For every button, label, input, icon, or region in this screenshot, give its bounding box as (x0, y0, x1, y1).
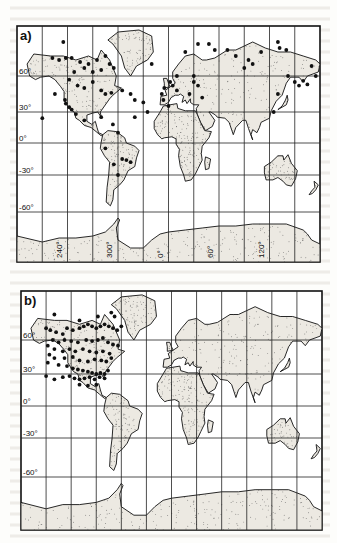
station-point (162, 98, 166, 102)
station-point (76, 84, 80, 88)
station-point (272, 110, 276, 114)
station-point (44, 374, 48, 378)
station-point (61, 332, 65, 336)
figure: a)60°30°0°-30°-60°240°300°0°60°120° b)60… (0, 0, 337, 543)
station-point (78, 377, 82, 381)
station-point (63, 98, 67, 102)
station-point (104, 54, 108, 58)
station-point (61, 349, 65, 353)
latitude-label: -30° (23, 429, 38, 438)
station-point (168, 80, 172, 84)
station-point (73, 376, 77, 380)
station-point (88, 349, 92, 353)
station-point (119, 324, 123, 328)
station-point (83, 376, 87, 380)
station-point (88, 375, 92, 379)
station-point (76, 340, 80, 344)
station-point (192, 80, 196, 84)
station-point (40, 116, 44, 120)
station-point (103, 372, 107, 376)
station-point (99, 89, 103, 93)
map-panel-b: b)60°30°0°-30°-60° (21, 291, 322, 530)
station-point (129, 160, 133, 164)
station-point (93, 357, 97, 361)
station-point (116, 173, 120, 177)
station-point (51, 56, 55, 60)
station-point (116, 131, 120, 135)
station-point (108, 62, 112, 66)
station-point (133, 98, 137, 102)
station-point (78, 383, 82, 387)
station-point (53, 92, 57, 96)
station-point (120, 89, 124, 93)
station-point (63, 338, 67, 342)
station-point (101, 336, 105, 340)
latitude-label: 30° (23, 365, 35, 374)
station-point (53, 313, 57, 317)
station-point (82, 86, 86, 90)
station-point (70, 56, 74, 60)
station-point (286, 74, 290, 78)
station-point (73, 349, 77, 353)
station-point (213, 48, 217, 52)
station-point (78, 326, 82, 330)
station-point (284, 48, 288, 52)
station-point (99, 115, 103, 119)
station-point (103, 376, 107, 380)
station-point (120, 157, 124, 161)
station-point (87, 62, 91, 66)
station-point (104, 146, 108, 150)
station-point (78, 319, 82, 323)
station-point (51, 338, 55, 342)
station-point (69, 339, 73, 343)
station-point (86, 384, 90, 388)
station-point (82, 66, 86, 70)
station-point (65, 326, 69, 330)
station-point (141, 101, 145, 105)
latitude-label: 0° (19, 134, 27, 143)
station-point (115, 328, 119, 332)
station-point (196, 84, 200, 88)
longitude-label: 300° (105, 241, 114, 258)
station-point (99, 371, 103, 375)
station-point (183, 50, 187, 54)
station-point (84, 338, 88, 342)
station-point (200, 96, 204, 100)
station-point (99, 359, 103, 363)
station-point (113, 315, 117, 319)
station-point (301, 79, 305, 83)
longitude-label: 60° (206, 246, 215, 258)
station-point (242, 66, 246, 70)
latitude-label: -30° (19, 166, 34, 175)
station-point (133, 115, 137, 119)
station-point (167, 104, 171, 108)
station-point (150, 62, 154, 66)
station-point (86, 370, 90, 374)
station-point (71, 328, 75, 332)
station-point (48, 328, 52, 332)
station-point (112, 66, 116, 70)
station-point (103, 322, 107, 326)
station-point (94, 383, 98, 387)
station-point (259, 50, 263, 54)
latitude-label: 60° (23, 331, 35, 340)
station-point (104, 360, 108, 364)
station-point (86, 360, 90, 364)
station-point (116, 344, 120, 348)
station-point (314, 74, 318, 78)
station-point (104, 92, 108, 96)
station-point (175, 89, 179, 93)
latitude-label: -60° (19, 203, 34, 212)
station-point (57, 340, 61, 344)
station-point (247, 58, 251, 62)
station-point (276, 92, 280, 96)
station-point (57, 363, 61, 367)
latitude-label: 0° (23, 397, 31, 406)
station-point (90, 324, 94, 328)
station-point (63, 356, 67, 360)
latitude-label: 30° (19, 103, 31, 112)
station-point (162, 86, 166, 90)
station-point (96, 315, 100, 319)
station-point (99, 68, 103, 72)
station-point (234, 54, 238, 58)
